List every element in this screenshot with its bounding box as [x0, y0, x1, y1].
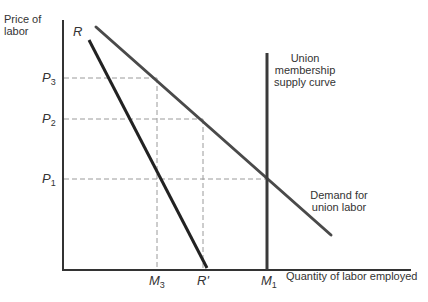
y-axis-label-line2: labor [4, 25, 41, 37]
r-label: R [73, 24, 82, 39]
diagram-canvas [0, 0, 428, 302]
supply-label-line3: supply curve [271, 76, 339, 88]
p2-tick: P2 [42, 111, 56, 128]
p3-tick: P3 [42, 70, 56, 87]
x-axis-label: Quantity of labor employed [286, 270, 417, 282]
y-axis-label-line1: Price of [4, 13, 41, 25]
m3-tick: M3 [149, 273, 165, 290]
demand-label-line1: Demand for [308, 189, 370, 201]
m1-tick: M1 [261, 273, 277, 290]
rprime-tick: R' [197, 273, 209, 288]
p1-tick: P1 [42, 171, 56, 188]
supply-curve-label: Union membership supply curve [271, 52, 339, 88]
y-axis-label: Price of labor [4, 13, 41, 37]
demand-curve-label: Demand for union labor [308, 189, 370, 213]
supply-label-line2: membership [271, 64, 339, 76]
supply-label-line1: Union [271, 52, 339, 64]
demand-label-line2: union labor [308, 201, 370, 213]
guide-lines [64, 78, 267, 269]
